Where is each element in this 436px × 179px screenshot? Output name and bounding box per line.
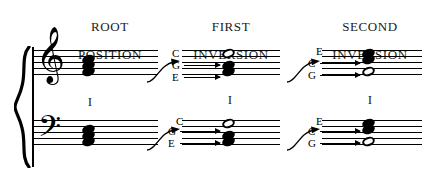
roman-numeral-first-inversion: I: [218, 92, 242, 108]
arrow-head: [215, 128, 221, 134]
curved-arrow-bass-root-to-first: [146, 126, 182, 156]
roman-numeral-root-position: I: [78, 94, 102, 110]
arrow-to-treble-first-e: [184, 74, 220, 81]
arrow-to-bass-first-g: [180, 128, 220, 135]
notehead-bottom: [361, 65, 376, 78]
arrow-head: [215, 140, 221, 146]
arrow-to-treble-second-g: [320, 72, 360, 79]
arrow-to-treble-first-g: [184, 62, 220, 69]
arrow-shaft: [320, 143, 360, 144]
arrow-head: [215, 74, 221, 80]
chord-bass-root-position: [82, 120, 98, 150]
arrow-head: [355, 60, 361, 66]
chord-bass-first-inversion: [222, 114, 238, 152]
arrow-head: [355, 140, 361, 146]
heading-line-1: FIRST: [168, 20, 294, 34]
arrow-head: [355, 72, 361, 78]
arrow-to-bass-second-g: [320, 140, 360, 147]
system-barline: [32, 47, 34, 167]
arrow-head: [355, 128, 361, 134]
heading-line-1: ROOT: [48, 20, 172, 34]
chord-inversion-figure: ROOT POSITION FIRST INVERSION SECOND INV…: [0, 0, 436, 179]
grand-staff-brace: [14, 46, 32, 168]
bass-clef-icon: 𝄢: [38, 112, 61, 148]
arrow-shaft: [180, 131, 220, 132]
arrow-head: [215, 62, 221, 68]
heading-line-1: SECOND: [306, 20, 434, 34]
arrow-to-bass-second-c: [320, 128, 360, 135]
arrow-shaft: [320, 63, 360, 64]
arrow-shaft: [320, 75, 360, 76]
roman-numeral-second-inversion: I: [358, 92, 382, 108]
arrow-to-bass-first-e: [180, 140, 220, 147]
curved-arrow-treble-root-to-first: [146, 58, 182, 88]
arrow-shaft: [320, 131, 360, 132]
curved-arrow-treble-first-to-second: [286, 58, 322, 88]
arrow-to-treble-second-c: [320, 60, 360, 67]
curved-arrow-bass-first-to-second: [286, 126, 322, 156]
notehead-top: [221, 117, 236, 130]
treble-clef-icon: 𝄞: [36, 30, 65, 79]
chord-treble-first-inversion: [222, 44, 238, 82]
notehead-bottom: [361, 135, 376, 148]
arrow-shaft: [180, 143, 220, 144]
chord-treble-root-position: [82, 50, 98, 80]
note-label-treble-second-e: E: [316, 46, 323, 57]
chord-treble-second-inversion: [362, 44, 378, 82]
notehead-top: [221, 47, 236, 60]
chord-bass-second-inversion: [362, 114, 378, 152]
